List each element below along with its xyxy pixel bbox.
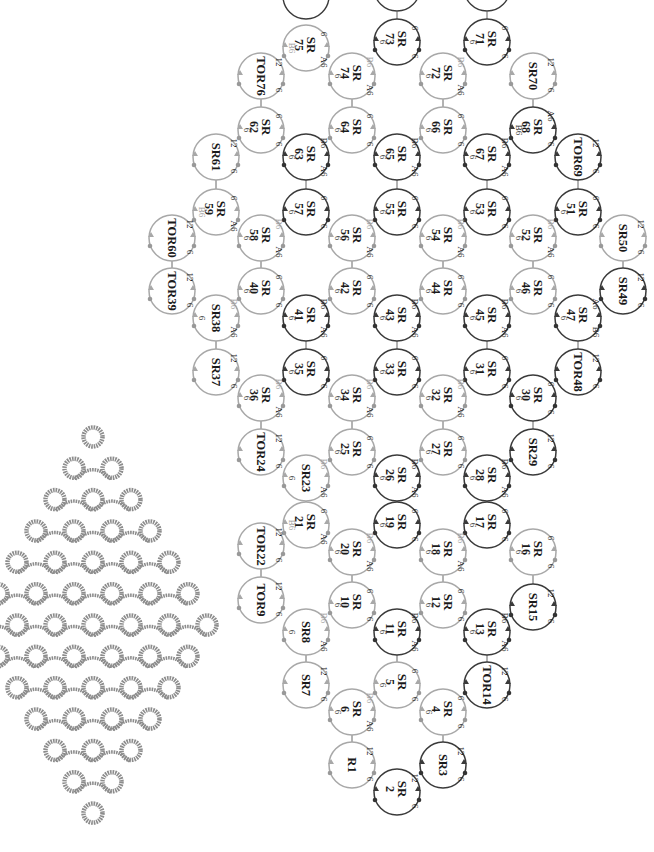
ring-sr13: SR13B6A66: [463, 609, 512, 655]
stitch-count-label: 6: [468, 155, 478, 160]
stitch-count-label: 6: [287, 630, 297, 635]
ring-sr59: SR596A6B6: [192, 189, 241, 235]
stitch-count-label: 6: [274, 88, 284, 93]
stitch-count-label: A6: [456, 85, 466, 96]
ring-name-label: SR37: [209, 358, 223, 386]
ring-name-label: SR8: [299, 621, 313, 643]
picot-join-dot: [282, 691, 287, 696]
picot-join-dot: [507, 218, 512, 223]
picot-join-dot: [281, 297, 286, 302]
picot-join-dot: [463, 611, 468, 616]
picot-join-dot: [554, 163, 559, 168]
stitch-count-label: 6: [274, 303, 284, 308]
ring-sr16: SR16666: [509, 529, 558, 575]
ring-sr23: SR23B6A66: [282, 455, 331, 501]
ring-sr10: SR10666: [328, 582, 377, 628]
ring-sr37: SR37126: [192, 349, 241, 395]
stitch-count-label: B6: [319, 459, 329, 470]
picot-join-dot: [419, 558, 424, 563]
stitch-count-label: 6: [333, 289, 343, 294]
stitch-count-label: A6: [365, 85, 375, 96]
ring-sr41: SR41B6A66: [282, 295, 331, 341]
picot-join-dot: [281, 606, 286, 611]
stitch-count-label: 6: [468, 476, 478, 481]
picot-join-dot: [281, 552, 286, 557]
picot-join-dot: [463, 638, 468, 643]
stitch-count-label: 6: [410, 537, 420, 542]
picot-join-dot: [236, 163, 241, 168]
stitch-count-label: 6: [500, 697, 510, 702]
picot-join-dot: [463, 48, 468, 53]
picot-join-dot: [192, 324, 197, 329]
stitch-count-label: 6: [287, 316, 297, 321]
stitch-count-label: 6: [410, 509, 420, 514]
stitch-count-label: B6: [319, 299, 329, 310]
ring-name-label: TOR48: [571, 352, 585, 391]
ring-sr56: SR56B6A66: [328, 215, 377, 261]
stitch-count-label: 6: [333, 710, 343, 715]
ring-sr43: SR43B6A66: [373, 295, 422, 341]
stitch-count-label: 6: [456, 142, 466, 147]
stitch-count-label: 6: [197, 316, 207, 321]
stitch-count-label: 6: [229, 384, 239, 389]
picot-join-dot: [192, 378, 197, 383]
stitch-count-label: 6: [546, 410, 556, 415]
ring-sr29: SR29126: [509, 429, 558, 475]
stitch-count-label: 6: [410, 224, 420, 229]
stitch-count-label: 12: [274, 528, 284, 537]
ring-tor48: TOR48126: [554, 349, 603, 395]
picot-join-dot: [237, 404, 242, 409]
stitch-count-label: B6: [287, 520, 297, 531]
picot-join-dot: [372, 458, 377, 463]
stitch-count-label: 6: [378, 523, 388, 528]
ring-sr57: SR57666: [282, 189, 331, 235]
stitch-count-label: 6: [559, 210, 569, 215]
stitch-count-label: 6: [274, 612, 284, 617]
stitch-count-label: 6: [424, 236, 434, 241]
ring-sr2: SR2126: [373, 769, 422, 815]
stitch-count-label: A6: [500, 166, 510, 177]
stitch-count-label: 6: [591, 196, 601, 201]
stitch-count-label: 6: [365, 617, 375, 622]
ring-sr12: SR12666: [419, 582, 468, 628]
stitch-count-label: B6: [287, 43, 297, 54]
stitch-count-label: 6: [287, 155, 297, 160]
stitch-count-label: 6: [500, 356, 510, 361]
picot-join-dot: [463, 458, 468, 463]
stitch-count-label: 12: [500, 667, 510, 676]
stitch-count-label: 6: [410, 804, 420, 809]
stitch-count-label: B6: [410, 138, 420, 149]
picot-join-dot: [417, 378, 422, 383]
ring-tor60: TOR60126: [148, 215, 197, 261]
stitch-count-label: B6: [365, 379, 375, 390]
ring-sr73: SR73666: [373, 19, 422, 65]
stitch-count-label: 6: [456, 589, 466, 594]
stitch-count-label: A6: [319, 534, 329, 545]
ring-name-label: SR7: [299, 674, 313, 696]
ring-name-label: TOR22: [254, 526, 268, 565]
ring-sr40: SR40666: [237, 268, 286, 314]
picot-join-dot: [373, 48, 378, 53]
picot-join-dot: [417, 48, 422, 53]
ring-sr7: SR7126: [282, 662, 331, 708]
picot-join-dot: [373, 638, 378, 643]
ring-sr72: SR72B6A66: [419, 53, 468, 99]
stitch-count-label: A6: [365, 561, 375, 572]
stitch-count-label: 6: [378, 476, 388, 481]
picot-join-dot: [419, 718, 424, 723]
stitch-count-label: A6: [319, 487, 329, 498]
stitch-count-label: A6: [319, 166, 329, 177]
stitch-count-label: 6: [333, 74, 343, 79]
stitch-count-label: A6: [365, 407, 375, 418]
picot-join-dot: [598, 163, 603, 168]
stitch-count-label: A6: [591, 299, 601, 310]
ring-sr21: SR216A6B6: [282, 502, 331, 548]
ring-sr4: SR4666: [419, 689, 468, 735]
stitch-count-label: B6: [514, 125, 524, 136]
picot-join-dot: [237, 552, 242, 557]
stitch-count-label: A6: [365, 247, 375, 258]
ring-sr74: SR74B6A66: [328, 53, 377, 99]
picot-join-dot: [417, 531, 422, 536]
ring-name-label: TOR14: [480, 665, 494, 705]
picot-join-dot: [328, 404, 333, 409]
